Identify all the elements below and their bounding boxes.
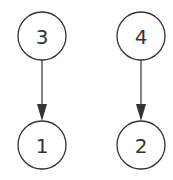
node-label: 3 (36, 25, 49, 49)
arrowhead-icon (136, 104, 146, 121)
edge-4-to-2 (136, 60, 146, 121)
arrowhead-icon (37, 104, 47, 121)
node-label: 2 (135, 134, 148, 158)
graph-canvas: 3 4 1 2 (0, 0, 173, 180)
node-label: 4 (135, 25, 148, 49)
node-4: 4 (117, 12, 165, 60)
edge-3-to-1 (37, 60, 47, 121)
node-2: 2 (117, 121, 165, 169)
node-3: 3 (18, 12, 66, 60)
node-1: 1 (18, 121, 66, 169)
node-label: 1 (36, 134, 49, 158)
